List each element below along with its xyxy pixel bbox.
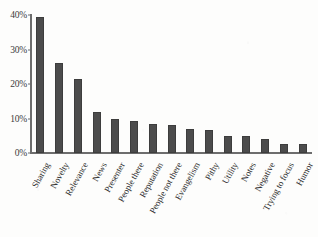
x-label-column: Trying to focus (275, 156, 294, 236)
bar-series (31, 15, 312, 153)
plot-area: 0%10%20%30%40% (31, 15, 312, 153)
bar (224, 136, 232, 153)
y-tick-label: 0% (15, 148, 27, 158)
y-tick-label: 10% (10, 114, 27, 124)
bar (242, 136, 250, 153)
x-axis-labels: SharingNoveltyRelevanceNewsPresenterPeop… (31, 156, 312, 236)
y-tick-label: 20% (10, 79, 27, 89)
x-label-column: Sharing (31, 156, 50, 236)
bar-chart: 0%10%20%30%40% SharingNoveltyRelevanceNe… (0, 0, 318, 237)
bar-column (200, 15, 219, 153)
bar-column (162, 15, 181, 153)
x-label-column: Utility (218, 156, 237, 236)
x-label-column: News (87, 156, 106, 236)
bar (36, 17, 44, 153)
x-label-column: Evangelism (181, 156, 200, 236)
bar-column (50, 15, 69, 153)
bar-column (237, 15, 256, 153)
bar-column (181, 15, 200, 153)
bar-column (31, 15, 50, 153)
bar (299, 144, 307, 153)
bar-column (68, 15, 87, 153)
bar-column (275, 15, 294, 153)
x-label-column: Relevance (68, 156, 87, 236)
bar (186, 129, 194, 153)
bar-column (106, 15, 125, 153)
y-tick-label: 30% (10, 45, 27, 55)
bar (55, 63, 63, 153)
bar (93, 112, 101, 153)
bar-column (218, 15, 237, 153)
bar-column (125, 15, 144, 153)
x-label-column: Pithy (200, 156, 219, 236)
bar (149, 124, 157, 153)
bar (280, 144, 288, 153)
bar (74, 79, 82, 153)
bar-column (143, 15, 162, 153)
x-label-column: Humor (293, 156, 312, 236)
bar-column (293, 15, 312, 153)
bar (111, 119, 119, 154)
bar-column (87, 15, 106, 153)
bar-column (256, 15, 275, 153)
y-tick-label: 40% (10, 10, 27, 20)
x-tick-label: Humor (294, 161, 314, 187)
x-label-column: Notes (237, 156, 256, 236)
x-tick-label: Relevance (64, 161, 90, 197)
x-label-column: Novelty (50, 156, 69, 236)
bar (261, 139, 269, 153)
bar (168, 125, 176, 153)
bar (130, 121, 138, 153)
bar (205, 130, 213, 153)
